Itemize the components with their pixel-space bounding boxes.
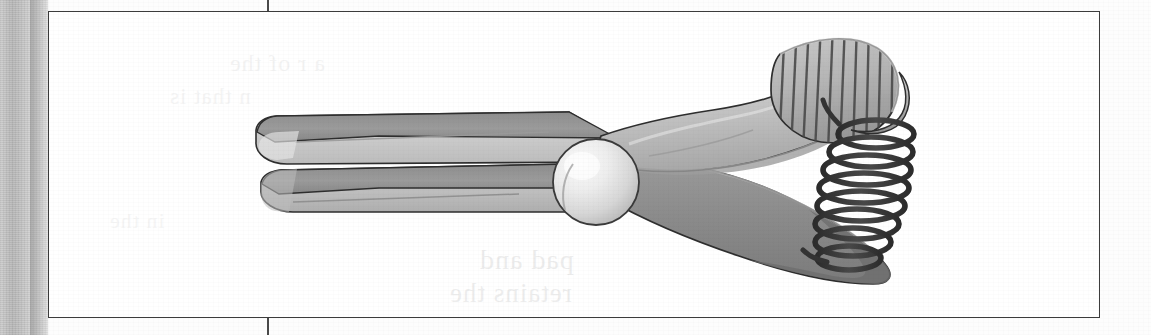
figure-frame: a r of the n that is pad and retains the… [48, 11, 1100, 318]
pivot-sphere-highlight [564, 152, 600, 180]
clothespin-illustration [49, 12, 1100, 318]
pivot-sphere-group [553, 139, 639, 225]
pivot-sphere [553, 139, 639, 225]
scan-edge-shadow [30, 0, 50, 335]
crop-mark-bottom [267, 317, 269, 335]
scanned-page: a r of the n that is pad and retains the… [0, 0, 1151, 335]
